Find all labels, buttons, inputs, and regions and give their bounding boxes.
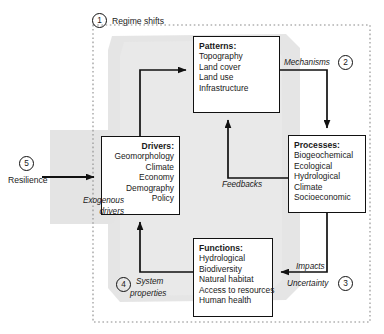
node-patterns-item: Land use [199, 72, 274, 82]
label-system: System [136, 277, 163, 287]
node-functions-item: Natural habitat [199, 274, 267, 284]
node-drivers-item: Geomorphology [107, 151, 174, 161]
diagram-canvas: Patterns: Topography Land cover Land use… [0, 0, 384, 334]
label-feedbacks: Feedbacks [222, 180, 262, 190]
node-processes-item: Climate [294, 182, 360, 192]
marker-4-circle[interactable]: 4 [116, 277, 131, 292]
node-processes-item: Hydrological [294, 171, 360, 181]
node-processes-title: Processes: [294, 140, 360, 150]
node-processes-item: Ecological [294, 161, 360, 171]
node-functions-item: Access to resources [199, 285, 267, 295]
marker-5-circle[interactable]: 5 [19, 156, 34, 171]
node-drivers-item: Economy [107, 172, 174, 182]
marker-3-circle[interactable]: 3 [338, 276, 353, 291]
node-drivers-title: Drivers: [107, 141, 174, 151]
node-patterns-item: Land cover [199, 62, 274, 72]
node-functions-item: Hydrological [199, 253, 267, 263]
node-functions-item: Biodiversity [199, 264, 267, 274]
label-exogenous: Exogenous [50, 196, 124, 206]
marker-2-circle[interactable]: 2 [338, 55, 353, 70]
node-functions-title: Functions: [199, 243, 267, 253]
label-resilience: Resilience [8, 175, 48, 185]
node-processes[interactable]: Processes: Biogeochemical Ecological Hyd… [288, 135, 366, 213]
node-functions-item: Human health [199, 295, 267, 305]
marker-1-circle[interactable]: 1 [92, 13, 107, 28]
marker-1-label: Regime shifts [112, 16, 164, 26]
label-uncertainty: Uncertainty [287, 279, 328, 289]
node-patterns-title: Patterns: [199, 41, 274, 51]
node-drivers-item: Demography [107, 183, 174, 193]
node-processes-item: Socioeconomic [294, 192, 360, 202]
label-properties: properties [130, 289, 166, 299]
label-impacts: Impacts [296, 262, 325, 272]
node-patterns-item: Infrastructure [199, 83, 274, 93]
node-functions[interactable]: Functions: Hydrological Biodiversity Nat… [193, 238, 273, 317]
node-drivers-item: Climate [107, 162, 174, 172]
node-processes-item: Biogeochemical [294, 150, 360, 160]
label-mechanisms: Mechanisms [284, 58, 330, 68]
label-exogenous-drivers: drivers [50, 207, 124, 217]
node-patterns[interactable]: Patterns: Topography Land cover Land use… [193, 36, 280, 113]
node-patterns-item: Topography [199, 51, 274, 61]
